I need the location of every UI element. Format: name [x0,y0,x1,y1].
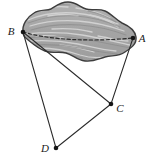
figure-canvas: B A C D [0,0,153,161]
vertex-point-C [109,102,114,107]
geometry-figure: B A C D [0,0,153,161]
edge-D-C [56,104,111,148]
vertex-point-D [54,146,59,151]
vertex-point-A [131,36,136,41]
vertex-label-C: C [116,102,124,114]
vertex-label-B: B [8,25,15,37]
vertex-label-A: A [138,32,146,44]
shaded-cloud-region [23,2,136,61]
vertex-point-B [21,30,26,35]
vertex-label-D: D [40,142,49,154]
